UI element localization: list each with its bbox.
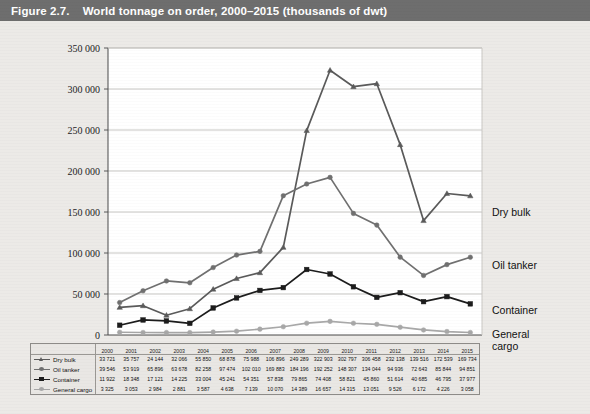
table-cell: 3 058 [455,384,479,394]
data-point-marker [141,330,146,335]
data-point-marker [468,255,473,260]
table-col-header-2000: 2000 [95,344,119,354]
data-point-marker [398,325,403,330]
table-cell: 24 144 [143,354,167,364]
data-point-marker [211,330,216,335]
data-point-marker [351,321,356,326]
data-point-marker [258,249,263,254]
data-point-marker [211,265,216,270]
table-cell: 35 757 [119,354,143,364]
data-point-marker [304,321,309,326]
legend-swatch-square [31,374,51,384]
data-point-marker [211,306,216,311]
table-col-header-2002: 2002 [143,344,167,354]
table-col-header-2001: 2001 [119,344,143,354]
table-row-label: Dry bulk [51,354,95,364]
table-cell: 82 258 [191,364,215,374]
legend-swatch-header [31,344,51,354]
table-cell: 13 051 [359,384,383,394]
data-table-container: 2000200120022003200420052006200720082009… [30,343,480,395]
table-col-header-2010: 2010 [335,344,359,354]
table-cell: 33 004 [191,374,215,384]
series-label-general-cargo-line1: General [492,328,529,340]
table-row: Container11 92218 34817 12114 22533 0044… [31,374,479,384]
table-cell: 17 121 [143,374,167,384]
table-cell: 322 903 [311,354,335,364]
table-cell: 16 657 [311,384,335,394]
table-cell: 7 139 [239,384,263,394]
figure-title-bar: Figure 2.7. World tonnage on order, 2000… [0,0,590,21]
series-label-general-cargo-line2: cargo [492,340,518,352]
table-cell: 58 821 [335,374,359,384]
data-point-marker [375,295,380,300]
data-point-marker [468,302,473,307]
data-point-marker [398,290,403,295]
table-row: Oil tanker39 54653 91965 89663 67882 258… [31,364,479,374]
legend-swatch-circle [31,364,51,374]
data-point-marker [468,330,473,335]
data-point-marker [117,330,122,335]
y-tick-label: 350 000 [42,43,100,54]
data-point-marker [281,285,286,290]
table-col-header-2011: 2011 [359,344,383,354]
table-col-header-2004: 2004 [191,344,215,354]
table-cell: 68 878 [215,354,239,364]
table-cell: 45 860 [359,374,383,384]
table-col-header-2013: 2013 [407,344,431,354]
legend-swatch-triangle [31,354,51,364]
data-point-marker [328,272,333,277]
table-row: Dry bulk33 72135 75724 14432 06655 85068… [31,354,479,364]
table-row-label: Oil tanker [51,364,95,374]
table-cell: 14 225 [167,374,191,384]
table-cell: 14 315 [335,384,359,394]
table-cell: 51 614 [383,374,407,384]
table-cell: 45 241 [215,374,239,384]
data-point-marker [328,175,333,180]
table-cell: 63 678 [167,364,191,374]
data-point-marker [117,323,122,328]
table-cell: 134 044 [359,364,383,374]
y-tick-label: 50 000 [42,289,100,300]
table-cell: 102 010 [239,364,263,374]
table-cell: 37 977 [455,374,479,384]
data-point-marker [375,223,380,228]
y-tick-label: 0 [42,330,100,341]
table-cell: 55 850 [191,354,215,364]
data-point-marker [421,299,426,304]
table-cell: 11 922 [95,374,119,384]
series-label-container: Container [492,305,538,317]
table-cell: 169 883 [263,364,287,374]
table-cell: 3 325 [95,384,119,394]
series-label-dry-bulk: Dry bulk [492,207,531,219]
table-cell: 2 984 [143,384,167,394]
table-cell: 94 851 [455,364,479,374]
table-row-label: General cargo [51,384,95,394]
data-point-marker [164,330,169,335]
table-cell: 54 351 [239,374,263,384]
data-point-marker [234,253,239,258]
table-cell: 39 546 [95,364,119,374]
table-cell: 32 066 [167,354,191,364]
table-cell: 302 797 [335,354,359,364]
table-cell: 79 865 [287,374,311,384]
table-cell: 40 685 [407,374,431,384]
series-label-oil-tanker: Oil tanker [492,260,537,272]
table-cell: 139 516 [407,354,431,364]
table-row: General cargo3 3253 0532 9842 8813 5874 … [31,384,479,394]
series-name-header [51,344,95,354]
table-cell: 192 252 [311,364,335,374]
data-point-marker [234,296,239,301]
table-cell: 46 795 [431,374,455,384]
table-cell: 2 881 [167,384,191,394]
y-tick-label: 250 000 [42,125,100,136]
table-cell: 232 138 [383,354,407,364]
data-point-marker [304,267,309,272]
table-col-header-2014: 2014 [431,344,455,354]
data-point-marker [164,279,169,284]
table-col-header-2003: 2003 [167,344,191,354]
table-column-divider [95,344,96,394]
data-point-marker [445,294,450,299]
table-cell: 184 196 [287,364,311,374]
data-point-marker [421,273,426,278]
table-cell: 33 721 [95,354,119,364]
